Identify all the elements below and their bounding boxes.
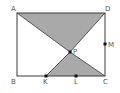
label-m: M bbox=[108, 41, 114, 49]
label-c: C bbox=[103, 78, 108, 86]
label-b: B bbox=[11, 78, 16, 86]
label-k: K bbox=[43, 78, 48, 86]
label-l: L bbox=[74, 78, 78, 86]
point-p-marker bbox=[69, 51, 72, 54]
shaded-triangle-adp bbox=[17, 13, 105, 52]
point-m-marker bbox=[104, 43, 107, 46]
label-d: D bbox=[105, 5, 110, 13]
label-a: A bbox=[11, 5, 16, 13]
geometry-diagram: A D B C K L M P bbox=[0, 0, 120, 93]
label-p: P bbox=[73, 48, 77, 56]
